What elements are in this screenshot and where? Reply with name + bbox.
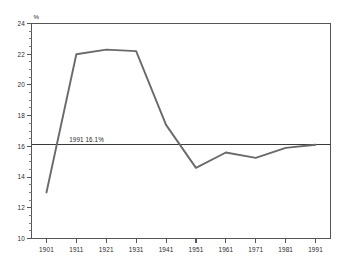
x-tick-label: 1991	[308, 246, 323, 253]
x-axis-ticks	[46, 239, 315, 244]
y-tick-label: 22	[18, 51, 26, 58]
x-tick-label: 1901	[39, 246, 54, 253]
reference-line-annotation: 1991 16.1%	[69, 136, 104, 143]
x-axis-tick-labels: 1901191119211931194119511961197119811991	[39, 246, 323, 253]
y-axis-tick-labels: 1012141618202224	[18, 20, 26, 242]
y-tick-label: 24	[18, 20, 26, 27]
x-tick-label: 1941	[159, 246, 174, 253]
y-tick-label: 14	[18, 173, 26, 180]
y-tick-label: 10	[18, 235, 26, 242]
line-chart: 1012141618202224 19011911192119311941195…	[0, 0, 346, 265]
x-tick-label: 1951	[189, 246, 204, 253]
x-tick-label: 1961	[218, 246, 233, 253]
x-tick-label: 1931	[129, 246, 144, 253]
y-tick-label: 20	[18, 81, 26, 88]
chart-container: 1012141618202224 19011911192119311941195…	[0, 0, 346, 265]
x-tick-label: 1911	[69, 246, 84, 253]
x-tick-label: 1971	[248, 246, 263, 253]
data-series-line	[46, 50, 315, 193]
y-axis-unit-label: %	[34, 13, 40, 20]
y-tick-label: 16	[18, 143, 26, 150]
series-line-percent	[46, 50, 315, 193]
y-axis-ticks	[27, 24, 32, 239]
x-tick-label: 1981	[278, 246, 293, 253]
x-tick-label: 1921	[99, 246, 114, 253]
y-tick-label: 12	[18, 204, 26, 211]
y-tick-label: 18	[18, 112, 26, 119]
